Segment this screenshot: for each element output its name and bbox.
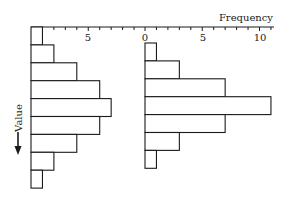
right-bar (145, 115, 225, 133)
right-bar (145, 79, 225, 97)
left-histogram-bars (31, 27, 111, 188)
left-bar (31, 134, 77, 152)
right-tick-label-10: 10 (254, 32, 267, 43)
right-bar (145, 133, 179, 151)
left-bar (31, 27, 42, 45)
right-histogram-bars (145, 43, 271, 168)
right-bar (145, 43, 156, 61)
left-bar (31, 45, 54, 63)
left-bar (31, 152, 54, 170)
right-bar (145, 61, 179, 79)
down-arrow-icon (15, 132, 22, 155)
left-bar (31, 170, 42, 188)
right-bar (145, 150, 156, 168)
left-bar (31, 99, 111, 117)
left-bar (31, 117, 100, 135)
x-axis-title: Frequency (219, 12, 273, 23)
left-bar (31, 63, 77, 81)
right-bar (145, 97, 271, 115)
left-bar (31, 81, 100, 99)
right-tick-label-0: 0 (142, 32, 148, 43)
left-tick-label-5: 5 (85, 32, 91, 43)
y-axis-title: Value (13, 104, 24, 133)
histogram-chart: 5 0 5 10 Frequency Value (0, 0, 291, 200)
right-tick-label-5: 5 (200, 32, 206, 43)
